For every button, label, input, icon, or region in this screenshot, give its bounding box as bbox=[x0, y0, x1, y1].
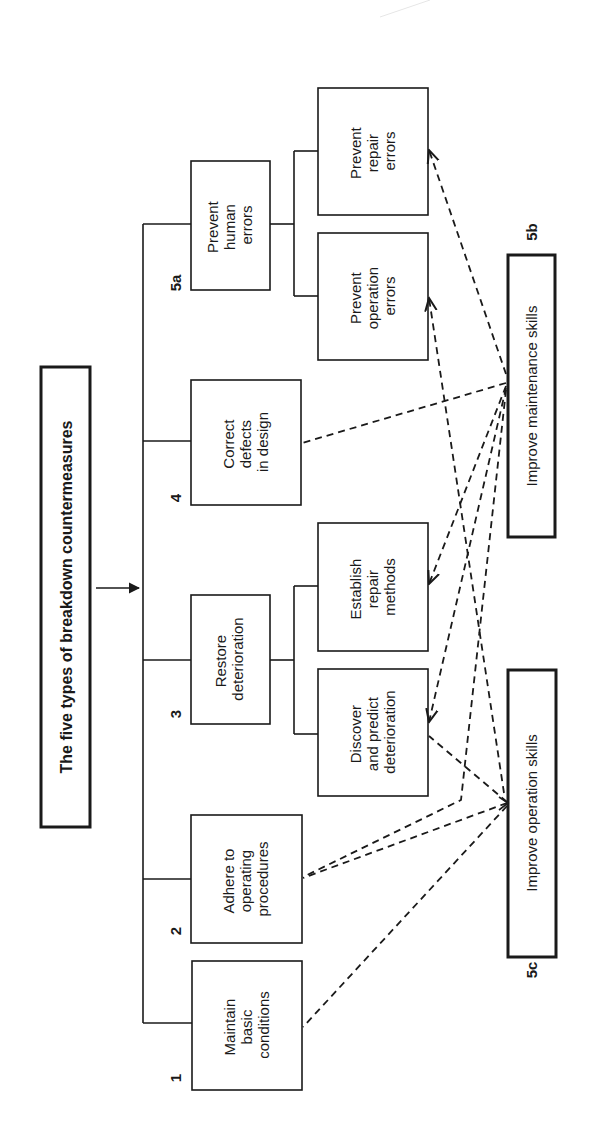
link-5c-discover-predict bbox=[429, 736, 507, 802]
node-improve-maintenance-skills: Improve maintenance skills bbox=[508, 255, 555, 537]
svg-text:Discover and predict: Discover and predict deterioration bbox=[347, 690, 398, 773]
link-5c-adhere bbox=[303, 803, 507, 878]
node-restore-deterioration: Restore deterioration bbox=[191, 595, 270, 724]
node-correct-defects-in-design: Correct defects in design bbox=[191, 380, 301, 505]
node-prevent-human-errors: Prevent human errors bbox=[191, 161, 270, 290]
title-text: The five types of breakdown countermeasu… bbox=[58, 420, 75, 773]
title-box: The five types of breakdown countermeasu… bbox=[41, 367, 90, 827]
label-5a: 5a bbox=[167, 274, 184, 291]
node-adhere-to-operating-procedures: Adhere to operating procedures bbox=[191, 815, 302, 943]
svg-text:Prevent human erro: Prevent human errors bbox=[204, 197, 255, 253]
label-3: 3 bbox=[167, 710, 184, 718]
label-4: 4 bbox=[167, 493, 184, 502]
svg-text:Adhere to operating: Adhere to operating procedures bbox=[220, 841, 271, 916]
link-5b-correct-defects bbox=[302, 383, 506, 443]
node-improve-operation-skills: Improve operation skills bbox=[508, 670, 556, 957]
label-5b: 5b bbox=[523, 223, 540, 241]
node-establish-repair-methods: Establish repair methods bbox=[318, 523, 428, 651]
node-prevent-operation-errors: Prevent operation errors bbox=[318, 233, 428, 360]
link-5c-prevent-operation-errors bbox=[429, 298, 504, 793]
node-prevent-repair-errors: Prevent repair errors bbox=[318, 88, 428, 215]
node-discover-and-predict-deterioration: Discover and predict deterioration bbox=[318, 669, 428, 796]
label-1: 1 bbox=[167, 1074, 184, 1082]
svg-text:Prevent repair err: Prevent repair errors bbox=[347, 123, 398, 179]
link-5c-maintain bbox=[303, 806, 507, 1027]
label-2: 2 bbox=[167, 927, 184, 935]
links-operation-skills bbox=[303, 298, 508, 1027]
label-5c: 5c bbox=[523, 962, 540, 979]
svg-text:Correct defects in: Correct defects in design bbox=[220, 412, 271, 472]
breakdown-countermeasures-diagram: The five types of breakdown countermeasu… bbox=[0, 0, 606, 1131]
scan-artifact bbox=[380, 0, 430, 17]
link-5b-prevent-repair-errors bbox=[429, 150, 506, 374]
node-maintain-basic-conditions: Maintain basic conditions bbox=[192, 961, 302, 1090]
svg-text:Improve operation skills: Improve operation skills bbox=[523, 734, 540, 892]
svg-text:Improve maintenance skills: Improve maintenance skills bbox=[523, 306, 540, 487]
